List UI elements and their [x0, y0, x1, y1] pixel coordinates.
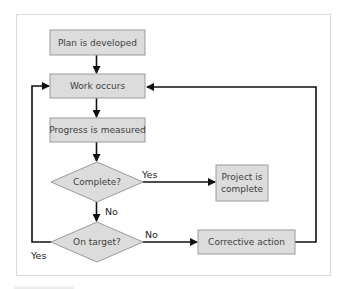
decision-complete: Complete? — [51, 162, 143, 202]
cropped-caption — [14, 285, 74, 289]
node-project-complete: Project is complete — [216, 165, 268, 201]
node-project-complete-line2: complete — [221, 184, 264, 194]
node-work-label: Work occurs — [70, 81, 125, 91]
edge-ontarget-yes-loop — [32, 86, 51, 242]
node-work-occurs: Work occurs — [50, 74, 145, 98]
decision-on-target: On target? — [51, 222, 143, 262]
node-plan-developed: Plan is developed — [50, 30, 145, 55]
decision-complete-label: Complete? — [73, 177, 121, 187]
node-progress-label: Progress is measured — [49, 125, 145, 135]
node-corrective-label: Corrective action — [208, 237, 285, 247]
node-corrective-action: Corrective action — [198, 230, 295, 254]
node-plan-label: Plan is developed — [58, 38, 137, 48]
label-complete-no: No — [105, 206, 118, 217]
flowchart: Plan is developed Work occurs Progress i… — [0, 0, 341, 289]
node-project-complete-line1: Project is — [222, 172, 263, 182]
node-progress-measured: Progress is measured — [49, 118, 145, 142]
label-complete-yes: Yes — [141, 169, 157, 180]
label-ontarget-no: No — [145, 229, 158, 240]
label-ontarget-yes: Yes — [30, 250, 46, 261]
decision-on-target-label: On target? — [73, 237, 121, 247]
